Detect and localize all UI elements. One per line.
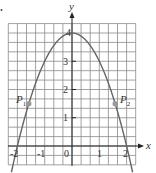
point-p2-label: P2 [119, 93, 131, 108]
x-axis-label: x [145, 139, 151, 151]
y-tick-1: 1 [63, 112, 68, 123]
x-tick-minus-2: -2 [10, 148, 18, 159]
bullet-mark [1, 9, 3, 11]
point-p1-label: P1 [15, 93, 27, 108]
y-ticks [72, 61, 76, 118]
y-tick-2: 2 [63, 84, 68, 95]
x-tick-0: 0 [64, 148, 69, 159]
x-tick-minus-1: -1 [37, 148, 45, 159]
point-p2 [113, 101, 118, 106]
y-axis-arrow-icon [70, 12, 75, 18]
point-p1 [26, 101, 31, 106]
y-tick-3: 3 [63, 56, 68, 67]
x-axis-arrow-icon [138, 144, 144, 149]
y-axis-label: y [68, 0, 74, 12]
x-tick-1: 1 [97, 148, 102, 159]
parabola-graph: x y 1 2 3 4 -2 -1 0 1 2 P1 P2 [0, 0, 156, 173]
x-tick-2: 2 [123, 148, 128, 159]
y-tick-4: 4 [66, 27, 71, 38]
